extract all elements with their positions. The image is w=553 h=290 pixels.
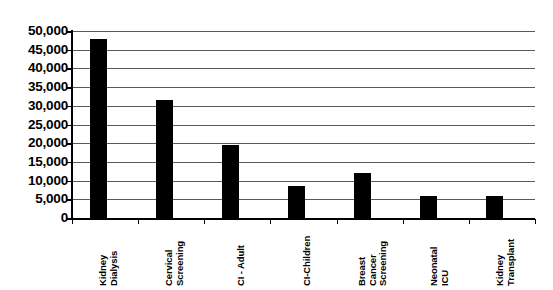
y-axis-tick-label: 50,000 [28,24,68,38]
y-axis-tick-mark [66,162,72,164]
x-axis-tick-label: CervicalScreening [164,241,185,286]
y-axis-tick-label: 30,000 [28,99,68,113]
y-axis-tick-mark [66,50,72,52]
y-axis-tick-label: 10,000 [28,174,68,188]
x-axis-tick-label-line: ICU [439,247,450,286]
x-axis-tick-label: KidneyTransplant [495,239,516,286]
x-axis-tick-mark [204,219,205,224]
x-axis-tick-label-line: CI-Children [302,236,313,286]
y-axis-tick-label: 15,000 [28,155,68,169]
x-axis-tick-mark [469,219,470,224]
x-axis-tick-label-line: Transplant [505,239,516,286]
x-axis-tick-mark [337,219,338,224]
gridline [72,31,535,32]
y-axis-tick-label: 45,000 [28,43,68,57]
y-axis-tick-labels: 05,00010,00015,00020,00025,00030,00035,0… [0,0,68,290]
gridline [72,106,535,107]
x-axis-tick-label-line: Screening [378,241,389,286]
x-axis-tick-label-line: CI - Adult [236,245,247,286]
bar [354,173,371,218]
y-axis-tick-label: 35,000 [28,80,68,94]
y-axis-tick-mark [66,181,72,183]
x-axis-tick-label-line: Dialysis [109,251,120,286]
x-axis-tick-mark [72,219,73,224]
bar [90,39,107,219]
x-axis-tick-mark [535,219,536,224]
x-axis-tick-label: CI-Children [302,236,313,286]
gridline [72,125,535,126]
y-axis-tick-mark [66,125,72,127]
y-axis-tick-mark [66,106,72,108]
y-axis-tick-mark [66,199,72,201]
x-axis-tick-label: CI - Adult [236,245,247,286]
bar [156,100,173,218]
x-axis-tick-label-line: Neonatal [429,247,440,286]
gridline [72,162,535,163]
x-axis-tick-mark [138,219,139,224]
gridline [72,87,535,88]
y-axis-tick-label: 5,000 [35,193,68,207]
y-axis-tick-mark [66,87,72,89]
gridline [72,181,535,182]
y-axis-tick-label: 25,000 [28,118,68,132]
gridline [72,50,535,51]
y-axis-tick-mark [66,31,72,33]
x-axis-tick-mark [403,219,404,224]
x-axis-tick-label-line: Screening [175,241,186,286]
x-axis-tick-labels: KidneyDialysisCervicalScreeningCI - Adul… [72,226,535,290]
y-axis-tick-label: 40,000 [28,62,68,76]
x-axis-tick-label: NeonatalICU [429,247,450,286]
bar [486,196,503,218]
y-axis-tick-mark [66,68,72,70]
gridline [72,68,535,69]
bar [288,186,305,218]
x-axis-tick-label-line: Kidney [495,239,506,286]
y-axis-tick-mark [66,143,72,145]
bar [420,196,437,218]
gridline [72,143,535,144]
x-axis-tick-label: KidneyDialysis [98,251,119,286]
bar-chart: 05,00010,00015,00020,00025,00030,00035,0… [0,0,553,290]
bar [222,145,239,218]
x-axis-baseline [72,218,535,220]
x-axis-tick-mark [270,219,271,224]
x-axis-tick-label: BreastCancerScreening [357,241,389,286]
y-axis-tick-label: 20,000 [28,136,68,150]
plot-area [72,31,535,218]
